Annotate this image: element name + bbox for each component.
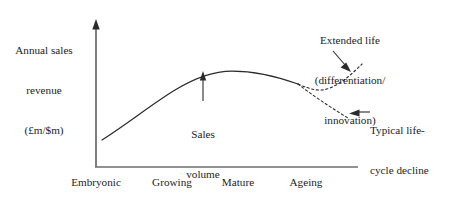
y-axis — [92, 19, 99, 167]
x-tick-ageing: Ageing — [278, 176, 334, 189]
y-axis-label-line-2: revenue — [0, 84, 88, 97]
typical-decline-line-2: cycle decline — [370, 164, 456, 177]
typical-decline-line-1: Typical life- — [370, 124, 456, 137]
y-axis-label-line-3: (£m/$m) — [0, 124, 88, 137]
x-tick-mature: Mature — [208, 176, 268, 189]
x-tick-embryonic: Embryonic — [60, 176, 132, 189]
y-axis-label-line-1: Annual sales — [0, 44, 88, 57]
extended-life-line-2: (differentiation/ — [288, 74, 412, 87]
y-axis-label: Annual sales revenue (£m/$m) — [0, 18, 88, 163]
typical-decline-annotation: Typical life- cycle decline (no extensio… — [370, 98, 456, 204]
x-tick-growing: Growing — [140, 176, 204, 189]
product-life-cycle-figure: Annual sales revenue (£m/$m) Sales volum… — [0, 0, 456, 204]
extended-life-line-1: Extended life — [288, 34, 412, 47]
sales-volume-line-1: Sales — [163, 128, 243, 141]
